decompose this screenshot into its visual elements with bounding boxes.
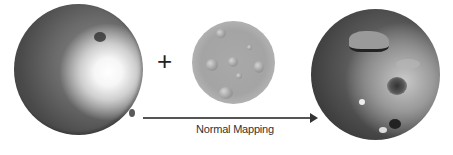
sphere-shadow-spot bbox=[94, 32, 106, 42]
plus-operator: + bbox=[157, 48, 172, 74]
arrow-label: Normal Mapping bbox=[180, 123, 290, 135]
crater bbox=[387, 77, 407, 95]
crater bbox=[247, 45, 252, 50]
sphere-shadow-spot bbox=[129, 109, 135, 117]
highlight-spot bbox=[379, 127, 387, 133]
arrow-line bbox=[143, 117, 311, 119]
surface-detail bbox=[396, 59, 420, 69]
arrow-head-icon bbox=[310, 113, 318, 123]
crater bbox=[216, 29, 226, 38]
normal-map-texture bbox=[192, 21, 275, 104]
result-sphere-image bbox=[311, 9, 440, 140]
base-sphere-image bbox=[14, 4, 143, 135]
crater bbox=[206, 59, 218, 71]
crater bbox=[219, 87, 233, 99]
crater bbox=[389, 119, 401, 129]
crater bbox=[236, 73, 242, 79]
crater-ridge bbox=[349, 31, 389, 52]
highlight-spot bbox=[359, 99, 365, 105]
crater bbox=[228, 57, 238, 67]
crater bbox=[254, 61, 264, 73]
